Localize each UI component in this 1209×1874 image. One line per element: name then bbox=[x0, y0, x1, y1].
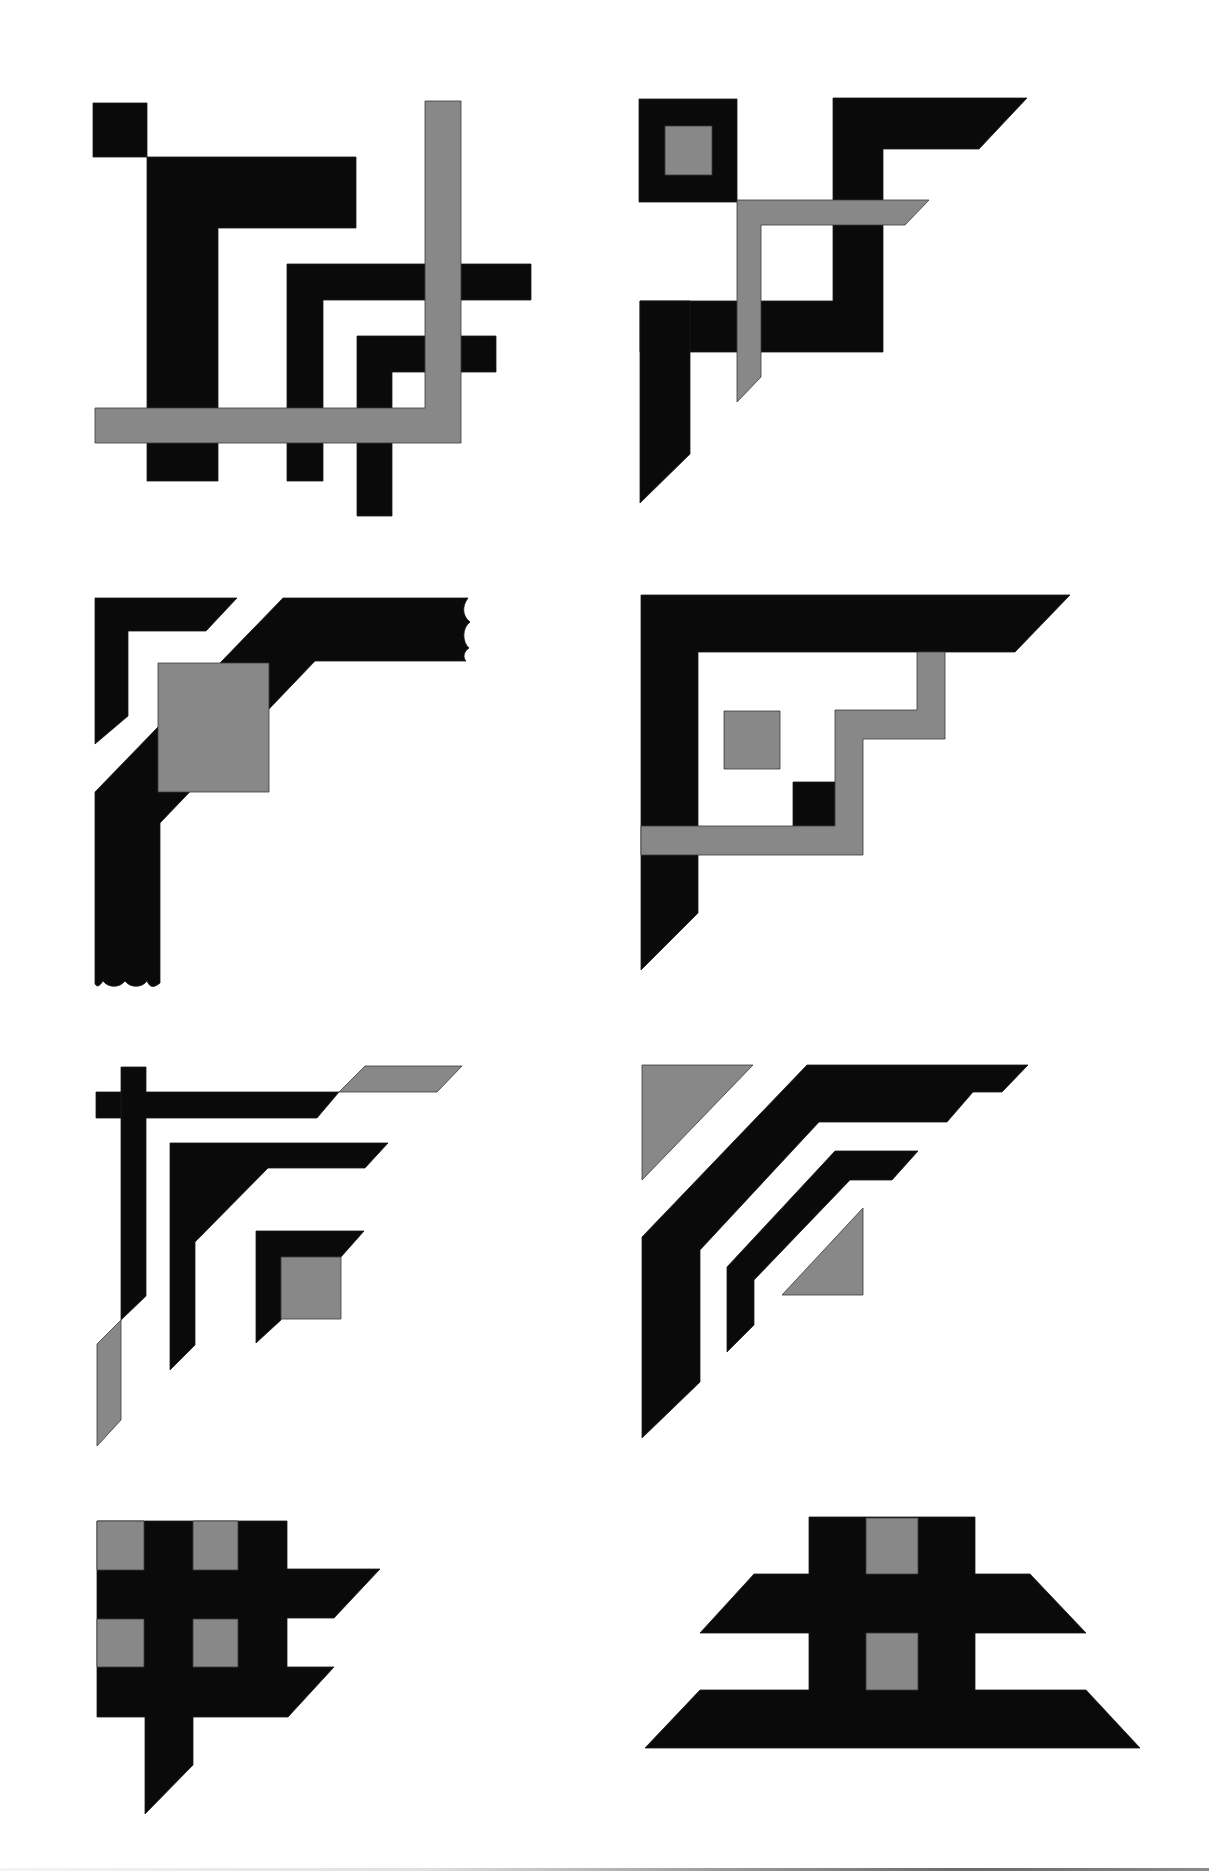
ornament-4 bbox=[641, 595, 1070, 970]
interlaced-square-corner-black-shape-0 bbox=[93, 103, 147, 157]
ornament-sheet bbox=[0, 0, 1209, 1874]
ornament-2 bbox=[639, 98, 1027, 503]
pagoda-border-element-gray-shape-1 bbox=[866, 1518, 918, 1574]
grid-block-corner-gray-shape-2 bbox=[193, 1521, 238, 1570]
page-edge-rule bbox=[0, 1868, 1209, 1871]
ornament-3 bbox=[95, 598, 470, 987]
cross-and-chevrons-corner-black-shape-1 bbox=[96, 1092, 121, 1118]
cross-and-chevrons-corner-gray-shape-6 bbox=[281, 1257, 341, 1319]
ornament-7 bbox=[97, 1521, 380, 1814]
key-square-corner-black-shape-3 bbox=[640, 301, 690, 503]
grid-block-corner-gray-shape-4 bbox=[193, 1619, 238, 1667]
diagonal-band bbox=[95, 598, 470, 987]
cross-and-chevrons-corner-gray-shape-2 bbox=[339, 1066, 462, 1092]
pagoda-border-element-gray-shape-2 bbox=[866, 1633, 918, 1690]
key-square-corner-gray-shape-1 bbox=[665, 126, 712, 175]
grid-block-corner-gray-shape-1 bbox=[97, 1521, 144, 1570]
grid-block-corner-gray-shape-3 bbox=[97, 1619, 144, 1667]
stepped-frame-corner-black-shape-2 bbox=[793, 782, 835, 826]
diagonal-band-corner-gray-shape-1 bbox=[158, 663, 269, 792]
interlaced-square-corner-black-shape-2 bbox=[287, 264, 531, 481]
cross-and-chevrons-corner-gray-shape-3 bbox=[97, 1320, 121, 1446]
ornament-1 bbox=[93, 101, 531, 516]
stepped-frame-corner-gray-shape-1 bbox=[724, 711, 780, 769]
ornament-5 bbox=[96, 1066, 462, 1446]
ornament-8 bbox=[645, 1517, 1140, 1748]
ornament-6 bbox=[642, 1065, 1028, 1438]
